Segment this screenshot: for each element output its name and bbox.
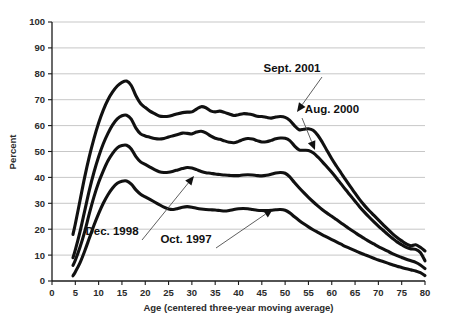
x-tick-label: 70 — [373, 287, 384, 298]
x-tick-label: 55 — [303, 287, 314, 298]
y-tick-label: 100 — [29, 16, 45, 27]
y-axis-title: Percent — [7, 134, 18, 170]
x-tick-label: 80 — [420, 287, 431, 298]
x-tick-label: 45 — [257, 287, 268, 298]
x-tick-label: 10 — [93, 287, 104, 298]
x-tick-label: 35 — [210, 287, 221, 298]
y-tick-label: 50 — [34, 146, 45, 157]
annotation-label-sept-2001: Sept. 2001 — [264, 62, 321, 74]
x-tick-label: 65 — [350, 287, 361, 298]
y-tick-label: 0 — [40, 275, 45, 286]
x-tick-label: 15 — [117, 287, 128, 298]
y-tick-label: 20 — [34, 224, 45, 235]
y-tick-label: 90 — [34, 42, 45, 53]
x-tick-label: 50 — [280, 287, 291, 298]
y-tick-label: 60 — [34, 120, 45, 131]
x-axis-title: Age (centered three-year moving average) — [143, 302, 333, 313]
x-tick-label: 25 — [163, 287, 174, 298]
y-tick-label: 30 — [34, 198, 45, 209]
line-chart-svg: 0102030405060708090100 05101520253035404… — [0, 0, 449, 319]
y-tick-label: 70 — [34, 94, 45, 105]
x-tick-label: 20 — [140, 287, 151, 298]
x-tick-label: 30 — [187, 287, 198, 298]
annotation-label-oct-1997: Oct. 1997 — [160, 233, 211, 245]
x-tick-label: 40 — [233, 287, 244, 298]
x-tick-label: 5 — [73, 287, 79, 298]
y-tick-label: 10 — [34, 250, 45, 261]
y-tick-label: 40 — [34, 172, 45, 183]
chart-figure: 0102030405060708090100 05101520253035404… — [0, 0, 449, 319]
x-tick-label: 60 — [326, 287, 337, 298]
annotation-label-dec-1998: Dec. 1998 — [85, 225, 139, 237]
x-tick-label: 75 — [396, 287, 407, 298]
annotation-label-aug-2000: Aug. 2000 — [305, 103, 359, 115]
x-tick-label: 0 — [49, 287, 54, 298]
y-tick-label: 80 — [34, 68, 45, 79]
